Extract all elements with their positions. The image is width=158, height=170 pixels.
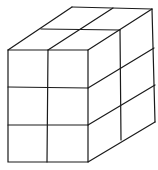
cuboid-diagram bbox=[0, 0, 158, 170]
right-face bbox=[88, 9, 155, 162]
top-face bbox=[8, 7, 152, 50]
front-face bbox=[8, 50, 88, 162]
